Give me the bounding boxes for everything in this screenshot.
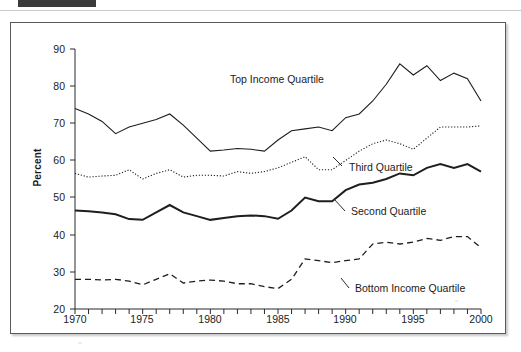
- x-tick-label: 1980: [198, 313, 222, 325]
- x-tick-label: 1970: [63, 313, 87, 325]
- figure-frame: Percent 90 80: [10, 22, 506, 334]
- header-tab-block: [18, 0, 96, 7]
- series-label-top-income-quartile: Top Income Quartile: [230, 73, 324, 85]
- page-root: Percent 90 80: [0, 0, 521, 352]
- y-tick-label: 50: [53, 191, 65, 203]
- y-tick-labels: 90 80 70 60 50 40 30 20: [53, 43, 65, 315]
- x-tick-labels: 1970 1975 1980 1985 1990 1995 2000: [63, 313, 493, 325]
- series-label-third-quartile: Third Quartile: [349, 161, 413, 173]
- series-label-bottom-income-quartile: Bottom Income Quartile: [355, 282, 465, 294]
- y-tick-label: 70: [53, 117, 65, 129]
- y-tick-marks: [70, 49, 75, 309]
- x-tick-label: 1990: [333, 313, 357, 325]
- y-tick-label: 90: [53, 43, 65, 55]
- y-tick-label: 80: [53, 80, 65, 92]
- series-label-second-quartile: Second Quartile: [351, 205, 426, 217]
- x-tick-label: 1995: [401, 313, 425, 325]
- y-tick-label: 30: [53, 266, 65, 278]
- plot-area: Percent 90 80: [11, 23, 507, 335]
- scan-speckle: [78, 342, 82, 344]
- series-line-bottom-income-quartile: [75, 237, 481, 289]
- leader-line-second: [334, 199, 345, 211]
- leader-line-third: [333, 157, 342, 166]
- page-header-strip: [0, 0, 521, 13]
- leader-line-bottom: [341, 278, 349, 288]
- y-tick-label: 40: [53, 229, 65, 241]
- line-chart: 90 80 70 60 50 40 30 20 1970 1975 1980 1…: [11, 23, 507, 335]
- x-tick-label: 1975: [130, 313, 154, 325]
- x-tick-label: 1985: [266, 313, 290, 325]
- y-tick-label: 60: [53, 154, 65, 166]
- header-divider-rule: [0, 10, 521, 11]
- x-tick-label: 2000: [469, 313, 493, 325]
